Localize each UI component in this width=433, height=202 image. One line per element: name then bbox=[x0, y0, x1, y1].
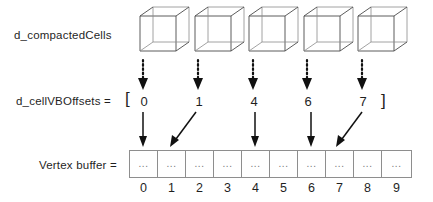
offset-value-3: 6 bbox=[300, 95, 316, 108]
cell-vb-offsets-label: d_cellVBOffsets = bbox=[16, 95, 111, 107]
buffer-index-8: 8 bbox=[353, 182, 382, 195]
buffer-cell-9: ... bbox=[381, 150, 412, 178]
buffer-index-5: 5 bbox=[269, 182, 298, 195]
cube-1-icon bbox=[195, 7, 244, 51]
cube-4-icon bbox=[358, 7, 407, 51]
solid-arrow-offset-2-to-buffer-cell-4 bbox=[251, 112, 259, 147]
buffer-index-0: 0 bbox=[129, 182, 158, 195]
offset-value-0: 0 bbox=[136, 95, 152, 108]
buffer-cell-2: ... bbox=[185, 150, 214, 178]
buffer-cell-5-value: ... bbox=[279, 158, 289, 169]
buffer-index-1: 1 bbox=[157, 182, 186, 195]
buffer-cell-7: ... bbox=[325, 150, 354, 178]
buffer-cell-1: ... bbox=[157, 150, 186, 178]
buffer-cell-4: ... bbox=[241, 150, 270, 178]
buffer-index-7: 7 bbox=[325, 182, 354, 195]
offset-value-4: 7 bbox=[355, 95, 371, 108]
buffer-cell-5: ... bbox=[269, 150, 298, 178]
offsets-open-bracket: [ bbox=[125, 90, 130, 107]
buffer-cell-1-value: ... bbox=[167, 158, 177, 169]
buffer-cell-6: ... bbox=[297, 150, 326, 178]
dotted-arrow-cube-0-to-offset-0 bbox=[138, 60, 148, 90]
buffer-cell-2-value: ... bbox=[195, 158, 205, 169]
cube-0-icon bbox=[140, 7, 189, 51]
solid-arrow-offset-3-to-buffer-cell-6 bbox=[307, 112, 315, 147]
buffer-cell-8: ... bbox=[353, 150, 382, 178]
cube-3-icon bbox=[304, 7, 353, 51]
offset-value-1: 1 bbox=[191, 95, 207, 108]
buffer-cell-6-value: ... bbox=[307, 158, 317, 169]
diagram-canvas: d_compactedCells d_cellVBOffsets = [ ] 0… bbox=[0, 0, 433, 202]
compacted-cells-label: d_compactedCells bbox=[14, 29, 112, 41]
buffer-index-9: 9 bbox=[381, 182, 412, 195]
buffer-cell-3-value: ... bbox=[223, 158, 233, 169]
dotted-arrow-cube-3-to-offset-3 bbox=[302, 60, 312, 90]
buffer-cell-4-value: ... bbox=[251, 158, 261, 169]
buffer-cell-9-value: ... bbox=[392, 158, 402, 169]
vertex-buffer-label: Vertex buffer = bbox=[39, 159, 117, 171]
buffer-cell-3: ... bbox=[213, 150, 242, 178]
buffer-cell-8-value: ... bbox=[363, 158, 373, 169]
buffer-index-6: 6 bbox=[297, 182, 326, 195]
buffer-index-4: 4 bbox=[241, 182, 270, 195]
buffer-cell-0-value: ... bbox=[139, 158, 149, 169]
solid-arrow-offset-4-to-buffer-cell-7 bbox=[336, 112, 362, 147]
buffer-cell-0: ... bbox=[129, 150, 158, 178]
cube-2-icon bbox=[249, 7, 298, 51]
buffer-index-2: 2 bbox=[185, 182, 214, 195]
dotted-arrow-cube-1-to-offset-1 bbox=[193, 60, 203, 90]
solid-arrow-offset-0-to-buffer-cell-0 bbox=[139, 112, 147, 147]
dotted-arrow-cube-2-to-offset-2 bbox=[248, 60, 258, 90]
solid-arrow-offset-1-to-buffer-cell-1 bbox=[170, 112, 196, 147]
offsets-close-bracket: ] bbox=[381, 92, 386, 109]
offset-value-2: 4 bbox=[246, 95, 262, 108]
buffer-index-3: 3 bbox=[213, 182, 242, 195]
dotted-arrow-cube-4-to-offset-4 bbox=[357, 60, 367, 90]
buffer-cell-7-value: ... bbox=[335, 158, 345, 169]
